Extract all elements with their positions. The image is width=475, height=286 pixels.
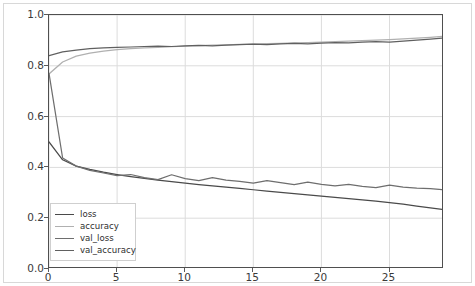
y-tick-label: 0.4: [4, 161, 44, 171]
legend-swatch-loss: [55, 214, 74, 215]
x-tick-label: 20: [305, 272, 335, 282]
y-tick-label: 1.0: [4, 9, 44, 19]
x-tick-label: 25: [374, 272, 404, 282]
legend: lossaccuracyval_lossval_accuracy: [50, 203, 136, 261]
legend-label-val_accuracy: val_accuracy: [80, 245, 136, 255]
series-line-val_accuracy: [49, 38, 443, 56]
x-tick-label: 15: [237, 272, 267, 282]
y-tick-mark: [44, 14, 48, 15]
x-tick-label: 10: [169, 272, 199, 282]
figure: 0.00.20.40.60.81.0 0510152025 lossaccura…: [0, 0, 475, 286]
y-tick-label: 0.2: [4, 212, 44, 222]
legend-item-val_accuracy: val_accuracy: [55, 244, 130, 256]
y-axis-tick-labels: 0.00.20.40.60.81.0: [0, 14, 44, 268]
legend-item-accuracy: accuracy: [55, 220, 130, 232]
y-tick-label: 0.6: [4, 111, 44, 121]
x-tick-mark: [320, 268, 321, 272]
y-tick-mark: [44, 217, 48, 218]
x-tick-label: 5: [101, 272, 131, 282]
legend-swatch-accuracy: [55, 226, 74, 227]
x-tick-mark: [252, 268, 253, 272]
series-line-loss: [49, 142, 443, 210]
y-tick-label: 0.8: [4, 60, 44, 70]
x-tick-mark: [116, 268, 117, 272]
x-axis-tick-labels: 0510152025: [48, 272, 443, 286]
legend-swatch-val_loss: [55, 238, 74, 239]
legend-label-loss: loss: [80, 209, 97, 219]
y-tick-mark: [44, 116, 48, 117]
legend-label-val_loss: val_loss: [80, 233, 114, 243]
legend-label-accuracy: accuracy: [80, 221, 119, 231]
x-tick-mark: [389, 268, 390, 272]
y-tick-mark: [44, 166, 48, 167]
legend-item-val_loss: val_loss: [55, 232, 130, 244]
x-tick-mark: [184, 268, 185, 272]
series-line-val_loss: [49, 73, 443, 189]
legend-item-loss: loss: [55, 208, 130, 220]
x-tick-label: 0: [33, 272, 63, 282]
legend-swatch-val_accuracy: [55, 250, 74, 251]
y-tick-mark: [44, 65, 48, 66]
x-tick-mark: [48, 268, 49, 272]
